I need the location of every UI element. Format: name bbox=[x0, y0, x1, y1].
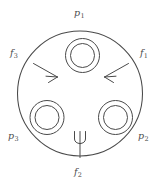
label-f3-base: f bbox=[10, 47, 14, 58]
arrow-left-icon bbox=[34, 64, 58, 83]
label-f2-base: f bbox=[74, 166, 78, 177]
diagram-canvas: p1 f1 p2 f2 p3 f3 bbox=[0, 0, 162, 187]
psi-left-prong bbox=[75, 132, 81, 144]
psi-right-prong bbox=[80, 132, 86, 144]
label-f3: f3 bbox=[10, 48, 18, 58]
arrow-right-shaft bbox=[105, 64, 129, 78]
psi-marker-icon bbox=[75, 132, 86, 158]
hole-bottom-left bbox=[30, 101, 64, 135]
arrow-left-head-lower bbox=[49, 77, 58, 83]
label-p3: p3 bbox=[8, 131, 18, 141]
label-p3-sub: 3 bbox=[14, 135, 18, 143]
hole-top bbox=[66, 39, 100, 73]
label-f1: f1 bbox=[140, 48, 148, 58]
surface-diagram-svg bbox=[0, 0, 162, 187]
label-f3-sub: 3 bbox=[14, 52, 18, 60]
arrow-right-icon bbox=[105, 64, 129, 83]
hole-top-inner-circle bbox=[71, 44, 95, 68]
hole-bottom-right bbox=[99, 101, 133, 135]
arrow-right-head-lower bbox=[105, 77, 114, 83]
label-p1: p1 bbox=[74, 8, 84, 18]
label-p1-sub: 1 bbox=[80, 12, 84, 20]
hole-bottom-left-inner-circle bbox=[35, 106, 59, 130]
arrow-left-shaft bbox=[34, 64, 58, 78]
label-f2-sub: 2 bbox=[78, 171, 82, 179]
label-f1-base: f bbox=[140, 47, 144, 58]
hole-bottom-right-inner-circle bbox=[104, 106, 128, 130]
label-p2-sub: 2 bbox=[144, 135, 148, 143]
label-f2: f2 bbox=[74, 167, 82, 177]
label-p2: p2 bbox=[138, 131, 148, 141]
label-f1-sub: 1 bbox=[144, 52, 148, 60]
